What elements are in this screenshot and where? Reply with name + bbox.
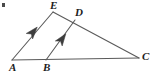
segment-ec [53, 12, 139, 58]
segment-ac [12, 58, 139, 60]
segments-group [12, 12, 139, 60]
vertex-label-e: E [50, 0, 57, 11]
vertex-label-d: D [75, 7, 83, 18]
vertex-label-b: B [43, 62, 50, 73]
vertex-label-a: A [9, 62, 16, 73]
vertex-label-c: C [142, 51, 149, 62]
parallel-marks-group [26, 24, 69, 46]
geometry-figure: E D C A B [0, 0, 154, 76]
parallel-arrow-ae-icon [26, 24, 40, 39]
